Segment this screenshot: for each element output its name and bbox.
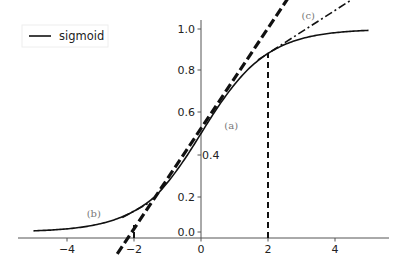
y-tick-label: 0.0 bbox=[178, 226, 196, 239]
x-tick-label: 4 bbox=[332, 243, 339, 256]
legend-label-sigmoid: sigmoid bbox=[59, 29, 104, 43]
annotation-a: (a) bbox=[224, 120, 238, 131]
x-tick-label: −4 bbox=[59, 243, 75, 256]
annotation-b: (b) bbox=[87, 208, 101, 219]
y-tick-label: 0.6 bbox=[178, 106, 196, 119]
y-tick-label: 0.2 bbox=[178, 191, 196, 204]
x-tick-label: 0 bbox=[198, 243, 205, 256]
axes: −4−20240.00.20.40.60.81.0 bbox=[18, 20, 389, 256]
legend: sigmoid bbox=[22, 25, 108, 47]
x-tick-label: 2 bbox=[265, 243, 272, 256]
y-tick-label: 1.0 bbox=[178, 23, 196, 36]
y-tick-label: 0.4 bbox=[202, 149, 220, 162]
sigmoid-chart: −4−20240.00.20.40.60.81.0 (a)(b)(c) sigm… bbox=[0, 0, 404, 273]
annotation-c: (c) bbox=[301, 10, 315, 21]
x-tick-label: −2 bbox=[126, 243, 142, 256]
y-tick-label: 0.8 bbox=[178, 64, 196, 77]
